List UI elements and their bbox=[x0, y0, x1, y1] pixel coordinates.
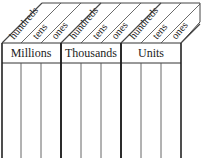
group-label-thousands: Thousands bbox=[65, 46, 117, 60]
place-value-chart: Millions Thousands Units hundreds tens o… bbox=[0, 0, 201, 161]
column-label-thousands-tens: tens bbox=[90, 21, 109, 41]
group-label-units: Units bbox=[138, 46, 164, 60]
column-label-millions-ones: ones bbox=[49, 19, 70, 41]
column-label-units-ones: ones bbox=[169, 19, 190, 41]
column-label-millions-tens: tens bbox=[30, 21, 49, 41]
column-label-units-tens: tens bbox=[150, 21, 169, 41]
group-label-millions: Millions bbox=[11, 46, 52, 60]
chart-labels: Millions Thousands Units hundreds tens o… bbox=[7, 5, 190, 60]
column-label-thousands-ones: ones bbox=[109, 19, 130, 41]
